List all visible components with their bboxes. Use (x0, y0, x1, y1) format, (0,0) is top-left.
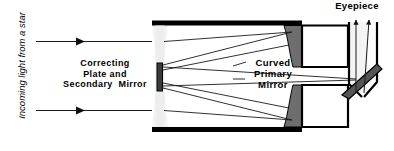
rear-housing-lower (302, 85, 348, 127)
curved-primary-mirror-lower (284, 85, 302, 127)
tube-wall-top (152, 21, 302, 26)
label-correcting-plate-and-secondary-mirror: Correcting Plate and Secondary Mirror (44, 58, 166, 90)
label-incoming-light-from-a-star: Incoming light from a star (16, 8, 27, 124)
incoming-ray-upper-arrow (76, 38, 85, 46)
tube-wall-bottom (152, 127, 302, 132)
incoming-ray-lower-arrow (76, 107, 85, 115)
label-eyepiece: Eyepiece (322, 0, 392, 11)
telescope-diagram: Correcting Plate and Secondary Mirror Cu… (0, 0, 394, 151)
label-curved-primary-mirror: Curved Primary Mirror (236, 57, 310, 91)
